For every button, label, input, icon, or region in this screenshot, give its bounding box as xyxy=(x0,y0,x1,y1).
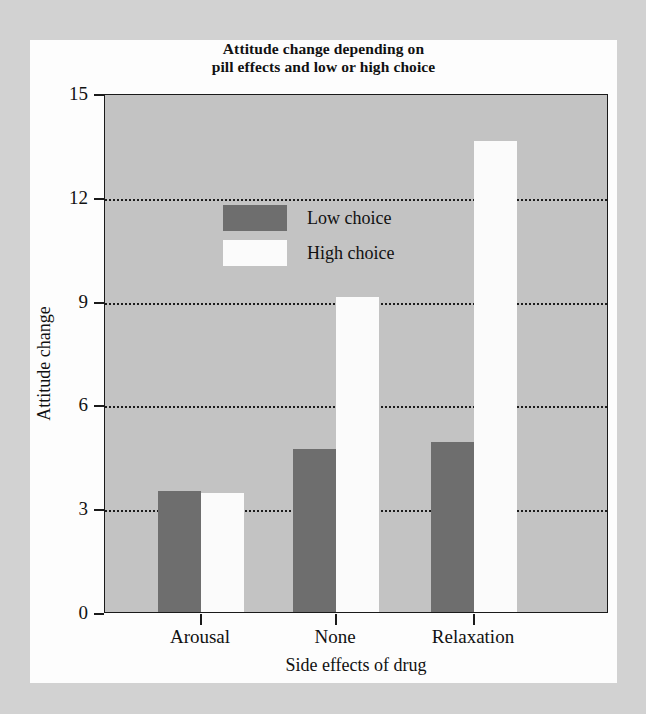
gridline-12 xyxy=(105,199,607,201)
y-tick-15 xyxy=(94,94,104,96)
legend-label-high-choice: High choice xyxy=(307,243,394,264)
legend-item-low-choice: Low choice xyxy=(223,205,394,231)
legend-swatch-high-choice xyxy=(223,240,287,266)
y-tick-label-3: 3 xyxy=(28,498,88,520)
bar-arousal-low-choice xyxy=(158,491,201,612)
y-tick-label-12: 12 xyxy=(28,187,88,209)
plot-area: Low choice High choice xyxy=(104,94,608,613)
legend-swatch-low-choice xyxy=(223,205,287,231)
bar-relaxation-high-choice xyxy=(474,141,517,612)
x-tick-label-relaxation: Relaxation xyxy=(432,626,514,648)
bar-relaxation-low-choice xyxy=(431,442,474,612)
bar-none-high-choice xyxy=(336,297,379,612)
y-tick-label-15: 15 xyxy=(28,83,88,105)
y-tick-6 xyxy=(94,405,104,407)
legend-label-low-choice: Low choice xyxy=(307,208,391,229)
scanned-page-background: Attitude change depending on pill effect… xyxy=(0,0,646,714)
legend-item-high-choice: High choice xyxy=(223,240,394,266)
y-tick-12 xyxy=(94,198,104,200)
x-axis-title: Side effects of drug xyxy=(104,655,608,676)
y-tick-9 xyxy=(94,302,104,304)
y-tick-3 xyxy=(94,509,104,511)
chart-title-line1: Attitude change depending on xyxy=(223,40,424,57)
x-tick-label-arousal: Arousal xyxy=(170,626,230,648)
y-tick-label-0: 0 xyxy=(28,602,88,624)
y-tick-0 xyxy=(94,613,104,615)
x-tick-arousal xyxy=(200,614,202,625)
y-axis-title: Attitude change xyxy=(34,274,55,454)
bar-arousal-high-choice xyxy=(201,493,244,612)
x-tick-none xyxy=(335,614,337,625)
chart-legend: Low choice High choice xyxy=(223,205,394,275)
x-tick-relaxation xyxy=(473,614,475,625)
bar-none-low-choice xyxy=(293,449,336,612)
chart-title: Attitude change depending on pill effect… xyxy=(30,40,617,76)
x-tick-label-none: None xyxy=(314,626,355,648)
chart-title-line2: pill effects and low or high choice xyxy=(30,58,617,76)
